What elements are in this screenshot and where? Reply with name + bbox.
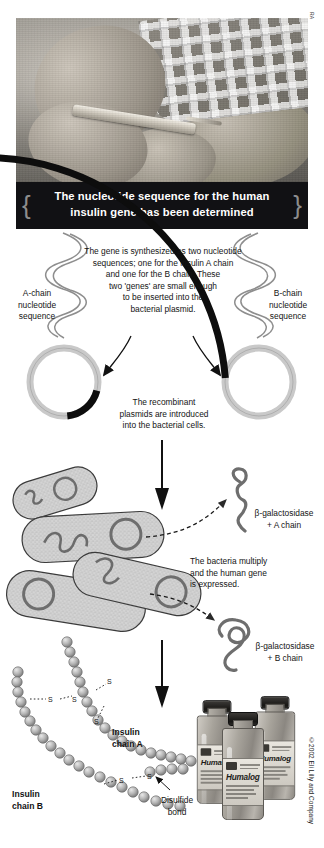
synthesis-line-4: two 'genes' are small enough — [72, 281, 254, 293]
synthesis-paragraph: The gene is synthesized as two nucleotid… — [72, 246, 254, 316]
b-chain-label-line1: B-chain — [258, 288, 318, 300]
synthesis-line-6: bacterial plasmid. — [72, 304, 254, 316]
flow-arrow-2-icon — [155, 640, 169, 708]
plasmid-line-2: plasmids are introduced — [104, 409, 224, 421]
plasmid-paragraph: The recombinant plasmids are introduced … — [104, 397, 224, 432]
synthesis-line-5: to be inserted into the — [72, 292, 254, 304]
insulin-chain-a-label: Insulin chain A — [112, 727, 174, 750]
sulfur-label: S — [107, 678, 112, 685]
product-b-label: β-galactosidase + B chain — [246, 641, 324, 664]
sulfur-label: S — [94, 718, 99, 725]
protein-b-chain-icon — [219, 620, 249, 671]
a-chain-label-line1: A-chain — [8, 288, 66, 300]
vial-label: Humalog — [223, 758, 263, 806]
b-chain-sequence-label: B-chain nucleotide sequence — [258, 288, 318, 323]
flow-arrow-1-icon — [155, 440, 169, 510]
plasmid-a-insert — [67, 387, 97, 419]
plasmid-line-1: The recombinant — [104, 397, 224, 409]
bacteria-line-2: and the human gene — [190, 568, 296, 580]
insulin-production-diagram: RA { } The nucleotide sequence for the h… — [0, 0, 324, 848]
synthesis-line-3: and one for the B chain. These — [72, 269, 254, 281]
chain-b-label-line1: Insulin — [12, 789, 74, 801]
chain-a-label-line2: chain A — [112, 739, 174, 751]
product-a-label: β-galactosidase + A chain — [244, 508, 324, 531]
synthesis-line-2: sequences; one for the insulin A chain — [72, 258, 254, 270]
product-a-line1: β-galactosidase — [244, 508, 324, 520]
humalog-vials-photo: Humalog Humalog Humalo — [196, 694, 308, 844]
synthesis-line-1: The gene is synthesized as two nucleotid… — [72, 246, 254, 258]
plasmid-line-3: into the bacterial cells. — [104, 420, 224, 432]
sulfur-label: S — [147, 773, 152, 780]
bacteria-paragraph: The bacteria multiply and the human gene… — [190, 556, 296, 591]
a-chain-sequence-label: A-chain nucleotide sequence — [8, 288, 66, 323]
product-b-line2: + B chain — [246, 653, 324, 665]
humalog-vial-front: Humalog — [222, 712, 264, 820]
copyright-notice: ©2002 Eli Lilly and Company — [308, 737, 315, 824]
a-chain-label-line3: sequence — [8, 311, 66, 323]
insulin-chain-b-label: Insulin chain B — [12, 789, 74, 812]
lilly-logo-icon — [201, 748, 212, 756]
insert-arrow-left-icon — [104, 336, 131, 375]
sulfur-label: S — [72, 696, 77, 703]
b-chain-label-line3: sequence — [258, 311, 318, 323]
chain-a-label-line1: Insulin — [112, 727, 174, 739]
lilly-logo-icon — [226, 762, 237, 770]
insert-arrow-right-icon — [193, 336, 220, 375]
sulfur-label: S — [119, 777, 124, 784]
a-chain-label-line2: nucleotide — [8, 300, 66, 312]
disulfide-leader-icon — [156, 777, 170, 790]
chain-b-label-line2: chain B — [12, 801, 74, 813]
plasmid-a-chain — [30, 348, 98, 420]
product-a-line2: + A chain — [244, 520, 324, 532]
product-b-line1: β-galactosidase — [246, 641, 324, 653]
vial-brand-name: Humalog — [226, 773, 260, 782]
bacteria-line-3: is expressed. — [190, 579, 296, 591]
b-chain-label-line2: nucleotide — [258, 300, 318, 312]
bacteria-line-1: The bacteria multiply — [190, 556, 296, 568]
sulfur-label: S — [48, 696, 53, 703]
